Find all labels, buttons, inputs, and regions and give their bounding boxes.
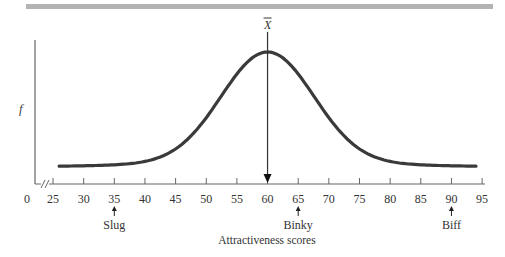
annotation-label-slug: Slug: [103, 218, 125, 232]
x-tick-label: 45: [170, 192, 182, 206]
mean-label: X: [263, 18, 272, 32]
mean-arrowhead-icon: [264, 174, 272, 183]
x-tick-label: 60: [262, 192, 274, 206]
x-axis-title: Attractiveness scores: [218, 234, 316, 246]
x-tick-label: 25: [47, 192, 59, 206]
mean-marker: X: [263, 18, 272, 183]
annotation-label-binky: Binky: [284, 218, 313, 232]
annotation-label-biff: Biff: [442, 218, 461, 232]
x-tick-label: 0: [24, 192, 30, 206]
x-tick-label: 50: [200, 192, 212, 206]
normal-distribution-chart: 0253035404550556065707580859095 X SlugBi…: [0, 0, 505, 257]
up-arrow-icon: [112, 206, 117, 211]
x-tick-label: 40: [139, 192, 151, 206]
up-arrow-icon: [449, 206, 454, 211]
x-tick-label: 55: [231, 192, 243, 206]
x-tick-label: 65: [292, 192, 304, 206]
x-tick-label: 80: [384, 192, 396, 206]
x-tick-label: 35: [108, 192, 120, 206]
x-tick-label: 90: [445, 192, 457, 206]
x-axis-ticks: 0253035404550556065707580859095: [24, 178, 488, 206]
annotations: SlugBinkyBiff: [103, 206, 461, 232]
x-tick-label: 85: [415, 192, 427, 206]
x-tick-label: 70: [323, 192, 335, 206]
y-axis-label: f: [19, 101, 25, 116]
x-tick-label: 30: [78, 192, 90, 206]
x-tick-label: 95: [476, 192, 488, 206]
up-arrow-icon: [296, 206, 301, 211]
x-tick-label: 75: [354, 192, 366, 206]
top-divider-bar: [26, 4, 493, 9]
